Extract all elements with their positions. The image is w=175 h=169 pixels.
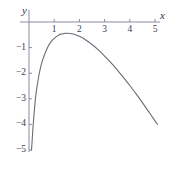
y-tick-label: −4 (16, 120, 26, 130)
x-tick-label: 1 (52, 25, 57, 35)
y-tick-label: −1 (16, 43, 26, 53)
y-tick-label: −2 (16, 68, 26, 78)
y-axis-label: y (22, 5, 27, 16)
axes-group (20, 10, 160, 152)
x-tick-label: 3 (102, 25, 107, 35)
plot-canvas (0, 0, 175, 169)
y-tick-label: −5 (16, 145, 26, 155)
x-axis-label: x (160, 10, 165, 21)
x-tick-label: 4 (127, 25, 132, 35)
x-tick-label: 2 (77, 25, 82, 35)
function-curve (32, 33, 158, 150)
function-plot-figure: 12345 −1−2−3−4−5 y x (0, 0, 175, 169)
x-tick-label: 5 (153, 25, 158, 35)
y-tick-label: −3 (16, 94, 26, 104)
